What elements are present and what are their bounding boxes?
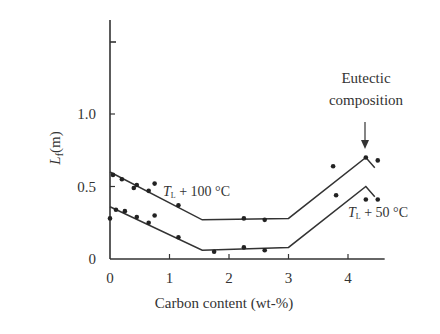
data-point xyxy=(262,218,267,223)
arrow-down-icon xyxy=(361,122,369,149)
data-point xyxy=(364,197,369,202)
data-point xyxy=(134,215,139,220)
x-tick-label: 3 xyxy=(285,270,293,286)
y-tick-label: 0.5 xyxy=(77,179,96,195)
eutectic-annotation-line2: composition xyxy=(329,92,404,108)
series-layer xyxy=(108,155,380,254)
x-tick-label: 0 xyxy=(106,270,114,286)
data-point xyxy=(134,183,139,188)
eutectic-annotation-line1: Eutectic xyxy=(341,70,390,86)
data-point xyxy=(123,209,128,214)
chart: 0123400.51.0 Lf(m) Carbon content (wt-%)… xyxy=(0,0,440,334)
y-tick-label: 0 xyxy=(89,251,97,267)
data-point xyxy=(114,207,119,212)
x-tick-label: 1 xyxy=(166,270,174,286)
data-point xyxy=(212,249,217,254)
x-axis-title: Carbon content (wt-%) xyxy=(155,295,293,312)
data-point xyxy=(176,235,181,240)
axes: 0123400.51.0 xyxy=(77,20,384,286)
data-point xyxy=(152,181,157,186)
y-axis-title: Lf(m) xyxy=(47,131,65,165)
data-point xyxy=(375,158,380,163)
series-label-upper: TL + 100 °C xyxy=(163,184,230,200)
data-point xyxy=(242,216,247,221)
data-point xyxy=(242,245,247,250)
data-point xyxy=(331,164,336,169)
data-point xyxy=(146,189,151,194)
data-point xyxy=(152,213,157,218)
series-upper xyxy=(110,155,380,222)
data-point xyxy=(375,197,380,202)
series-label-lower: TL + 50 °C xyxy=(348,205,408,221)
x-tick-label: 4 xyxy=(344,270,352,286)
data-point xyxy=(120,177,125,182)
data-point xyxy=(334,193,339,198)
data-point xyxy=(111,173,116,178)
data-point xyxy=(364,155,369,160)
data-point xyxy=(262,248,267,253)
data-point xyxy=(146,220,151,225)
data-point xyxy=(176,203,181,208)
x-tick-label: 2 xyxy=(225,270,233,286)
data-point xyxy=(108,216,113,221)
y-tick-label: 1.0 xyxy=(77,106,96,122)
